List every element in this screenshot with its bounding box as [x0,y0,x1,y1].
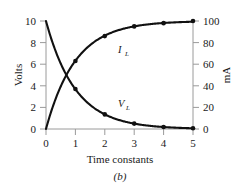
data-point-vl [191,126,196,131]
right-tick-label-80: 80 [203,37,215,49]
x-tick-label-2: 2 [102,137,108,149]
right-tick-label-20: 20 [203,101,215,113]
left-axis: 0 2 4 6 8 10 Volts [12,15,46,135]
right-tick-label-0: 0 [203,123,209,135]
x-axis: 0 1 2 3 4 5 Time constants [43,129,196,165]
data-point-il [161,21,166,26]
x-tick-label-5: 5 [190,137,196,149]
x-axis-title: Time constants [87,153,154,165]
markers-il [73,19,195,64]
data-point-il [132,24,137,29]
curve-il [46,22,193,129]
data-point-il [191,19,196,24]
left-tick-label-6: 6 [31,58,37,70]
curve-vl [46,21,193,128]
x-tick-label-4: 4 [161,137,167,149]
series-label-vl: V L [118,98,130,112]
left-tick-label-10: 10 [25,15,37,27]
data-point-vl [161,125,166,130]
series-label-il: I L [117,44,129,58]
right-tick-label-100: 100 [203,15,220,27]
left-tick-label-8: 8 [31,37,37,49]
left-tick-label-2: 2 [31,101,37,113]
left-tick-label-0: 0 [31,123,37,135]
series-label-vl-text: V [118,98,126,109]
data-point-vl [103,112,108,117]
right-tick-label-40: 40 [203,80,215,92]
x-tick-label-1: 1 [73,137,79,149]
right-axis: 0 20 40 60 80 100 mA [193,15,232,135]
y2-axis-title: mA [220,67,232,84]
markers-vl [73,87,195,131]
x-tick-label-0: 0 [43,137,49,149]
data-point-vl [73,87,78,92]
y-axis-title: Volts [12,64,24,86]
figure-caption: (b) [114,170,127,183]
left-tick-label-4: 4 [31,80,37,92]
series-label-vl-sub: L [125,104,130,112]
chart-canvas: 0 2 4 6 8 10 Volts 0 20 40 60 80 100 mA [0,0,246,183]
series-label-il-sub: L [124,50,129,58]
x-tick-label-3: 3 [131,137,137,149]
series-group [46,19,195,131]
data-point-il [73,59,78,64]
series-label-il-text: I [117,44,122,55]
right-tick-label-60: 60 [203,58,215,70]
data-point-il [103,34,108,39]
data-point-vl [132,121,137,126]
figure-container: 0 2 4 6 8 10 Volts 0 20 40 60 80 100 mA [0,0,246,183]
